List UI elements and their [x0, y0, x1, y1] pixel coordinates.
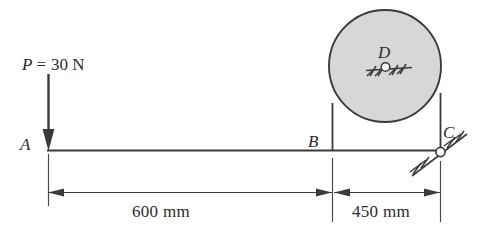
dimension-label-ab: 600 mm — [132, 203, 190, 220]
load-symbol: P — [22, 55, 32, 74]
support-c-inclined-pin — [410, 131, 467, 176]
statics-beam-figure: P=30 N A B C D 600 mm 450 mm — [0, 0, 487, 239]
dimension-line-bc — [334, 189, 440, 197]
figure-canvas — [0, 0, 487, 239]
pin-circle-d — [381, 63, 390, 72]
load-label-p: P=30 N — [22, 56, 85, 73]
point-label-d: D — [378, 44, 390, 61]
dimension-line-ab — [48, 189, 332, 197]
point-label-b: B — [308, 133, 318, 150]
pin-circle-c — [436, 147, 445, 156]
load-equals: = — [36, 55, 46, 74]
dimension-label-bc: 450 mm — [352, 203, 410, 220]
point-label-c: C — [443, 124, 454, 141]
load-value: 30 N — [51, 55, 85, 74]
load-arrow-head — [43, 129, 55, 151]
point-label-a: A — [20, 136, 30, 153]
